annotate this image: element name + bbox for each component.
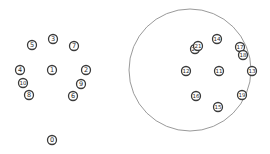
node-label: 6 <box>71 92 75 100</box>
node-18: 18 <box>239 51 248 60</box>
node-label: 12 <box>183 68 190 74</box>
node-label: 4 <box>18 66 22 74</box>
node-label: 17 <box>237 44 244 50</box>
node-7: 7 <box>70 42 79 51</box>
node-label: 10 <box>20 80 27 86</box>
node-15: 15 <box>214 103 223 112</box>
node-label: 21 <box>195 43 202 49</box>
node-4: 4 <box>16 66 25 75</box>
node-8: 8 <box>25 91 34 100</box>
node-3: 3 <box>49 35 58 44</box>
node-label: 9 <box>79 80 83 88</box>
node-label: 13 <box>249 68 256 74</box>
node-9: 9 <box>77 80 86 89</box>
diagram-canvas: 357412109860 2021141718121113161915 <box>0 0 270 154</box>
node-label: 8 <box>27 91 31 99</box>
node-label: 14 <box>214 36 221 42</box>
node-19: 19 <box>238 91 247 100</box>
node-13: 13 <box>248 67 257 76</box>
node-label: 5 <box>30 41 34 49</box>
node-1: 1 <box>48 66 57 75</box>
node-14: 14 <box>213 35 222 44</box>
node-label: 1 <box>50 66 54 74</box>
node-6: 6 <box>69 92 78 101</box>
node-diagram: 357412109860 2021141718121113161915 <box>0 0 270 154</box>
right-node-cluster: 2021141718121113161915 <box>182 35 257 112</box>
node-21: 21 <box>194 42 203 51</box>
node-label: 11 <box>216 68 223 74</box>
node-label: 2 <box>84 66 88 74</box>
node-label: 7 <box>72 42 76 50</box>
node-16: 16 <box>192 92 201 101</box>
node-12: 12 <box>182 67 191 76</box>
node-label: 15 <box>215 104 222 110</box>
node-label: 16 <box>193 93 200 99</box>
node-label: 3 <box>51 35 55 43</box>
node-10: 10 <box>19 79 28 88</box>
left-node-cluster: 357412109860 <box>16 35 91 145</box>
node-label: 0 <box>50 136 54 144</box>
node-11: 11 <box>215 67 224 76</box>
node-2: 2 <box>82 66 91 75</box>
node-label: 18 <box>240 52 247 58</box>
node-label: 19 <box>239 92 246 98</box>
node-0: 0 <box>48 136 57 145</box>
node-5: 5 <box>28 41 37 50</box>
